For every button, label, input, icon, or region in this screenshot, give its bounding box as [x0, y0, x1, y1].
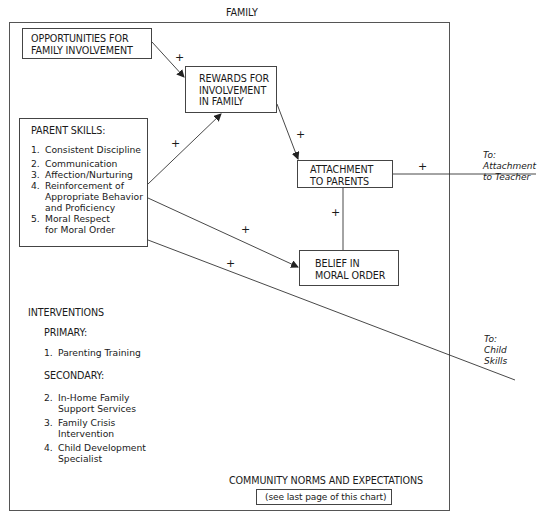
- node-label: MORAL ORDER: [315, 270, 398, 282]
- skill-item: 3.Affection/Nurturing: [31, 169, 147, 180]
- sign-parent-belief: +: [241, 224, 250, 235]
- see-last-page-note: (see last page of this chart): [256, 489, 392, 505]
- primary-label: PRIMARY:: [44, 327, 146, 339]
- secondary-label: SECONDARY:: [44, 370, 146, 382]
- interventions-section: INTERVENTIONS PRIMARY: 1.Parenting Train…: [28, 307, 146, 464]
- sign-parent-rewards: +: [171, 138, 180, 149]
- sign-parent-child: +: [226, 258, 235, 269]
- parent-skills-title: PARENT SKILLS:: [31, 125, 147, 137]
- intervention-item: 4.Child Development Specialist: [44, 442, 146, 464]
- node-parent-skills: PARENT SKILLS: 1.Consistent Discipline 2…: [19, 118, 148, 247]
- node-label: INVOLVEMENT: [199, 85, 276, 97]
- node-attachment-to-parents: ATTACHMENT TO PARENTS: [297, 160, 393, 188]
- primary-list: 1.Parenting Training: [44, 347, 146, 358]
- edge-parent-rewards: [148, 114, 221, 184]
- node-opportunities: OPPORTUNITIES FOR FAMILY INVOLVEMENT: [22, 28, 152, 59]
- intervention-item: 2.In-Home Family Support Services: [44, 392, 146, 414]
- sign-attachment-teacher: +: [418, 161, 427, 172]
- skill-item: 4.Reinforcement of Appropriate Behavior …: [31, 180, 147, 213]
- external-child-skills: To: Child Skills: [484, 334, 507, 367]
- node-label: IN FAMILY: [199, 96, 276, 108]
- intervention-item: 3.Family Crisis Intervention: [44, 417, 146, 439]
- skill-item: 5.Moral Respect for Moral Order: [31, 213, 147, 235]
- edge-parent-belief: [148, 198, 298, 267]
- node-label: OPPORTUNITIES FOR: [31, 33, 151, 45]
- node-label: REWARDS FOR: [199, 73, 276, 85]
- external-attachment-to-teacher: To: Attachment to Teacher: [483, 150, 536, 183]
- node-label: TO PARENTS: [310, 176, 392, 188]
- node-label: ATTACHMENT: [310, 164, 392, 176]
- skill-item: 2.Communication: [31, 158, 147, 169]
- intervention-item: 1.Parenting Training: [44, 347, 146, 358]
- edge-rewards-attachment: [277, 104, 298, 159]
- sign-opportunities-rewards: +: [175, 52, 184, 63]
- node-rewards: REWARDS FOR INVOLVEMENT IN FAMILY: [185, 66, 277, 113]
- node-label: FAMILY INVOLVEMENT: [31, 45, 151, 57]
- node-belief-moral-order: BELIEF IN MORAL ORDER: [299, 250, 399, 286]
- skill-item: 1.Consistent Discipline: [31, 144, 147, 155]
- interventions-heading: INTERVENTIONS: [28, 307, 146, 319]
- node-label: BELIEF IN: [315, 258, 398, 270]
- secondary-list: 2.In-Home Family Support Services 3.Fami…: [44, 392, 146, 464]
- community-norms-label: COMMUNITY NORMS AND EXPECTATIONS: [229, 475, 423, 487]
- sign-rewards-attachment: +: [296, 129, 305, 140]
- parent-skills-list: 1.Consistent Discipline 2.Communication …: [31, 144, 147, 235]
- sign-attachment-belief: +: [331, 207, 340, 218]
